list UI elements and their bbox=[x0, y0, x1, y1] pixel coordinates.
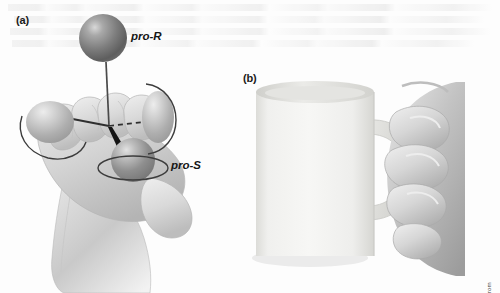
sphere-left-substituent bbox=[26, 101, 74, 143]
mug-body bbox=[256, 92, 374, 256]
label-pro-r: pro-R bbox=[130, 30, 162, 42]
panel-label-a: (a) bbox=[16, 14, 29, 26]
sphere-pro-s bbox=[111, 138, 155, 182]
finger-index bbox=[389, 106, 449, 151]
panel-a: pro-R pro-S bbox=[0, 0, 250, 293]
panel-b bbox=[250, 60, 465, 293]
figure-container: pro-R pro-S bbox=[0, 0, 500, 293]
label-pro-s: pro-S bbox=[170, 159, 201, 171]
gripping-hand-photo bbox=[385, 82, 465, 276]
mug-interior bbox=[265, 86, 365, 100]
panel-label-b: (b) bbox=[243, 72, 256, 84]
sphere-pro-r bbox=[79, 14, 127, 62]
